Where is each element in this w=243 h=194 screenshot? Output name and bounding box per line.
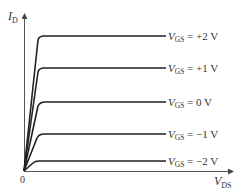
x-axis-label: VDS [214,174,232,190]
curve-vgs-minus1 [24,134,166,171]
curve-vgs-plus2 [24,36,166,171]
curve-vgs-minus2 [24,161,166,171]
y-axis-label: ID [7,9,18,25]
curve-labels: VGS = +2 V VGS = +1 V VGS = 0 V VGS = −1… [168,30,218,169]
label-vgs-0: VGS = 0 V [168,96,212,110]
label-vgs-minus1: VGS = −1 V [168,128,218,142]
label-vgs-plus1: VGS = +1 V [168,62,218,76]
curve-vgs-plus1 [24,68,166,171]
origin-label: 0 [20,174,25,185]
label-vgs-minus2: VGS = −2 V [168,155,218,169]
curves [24,36,166,171]
label-vgs-plus2: VGS = +2 V [168,30,218,44]
jfet-characteristic-chart: ID VDS 0 VGS = +2 V VGS = +1 V VGS = 0 V [0,0,243,194]
chart-svg: ID VDS 0 VGS = +2 V VGS = +1 V VGS = 0 V [0,0,243,194]
